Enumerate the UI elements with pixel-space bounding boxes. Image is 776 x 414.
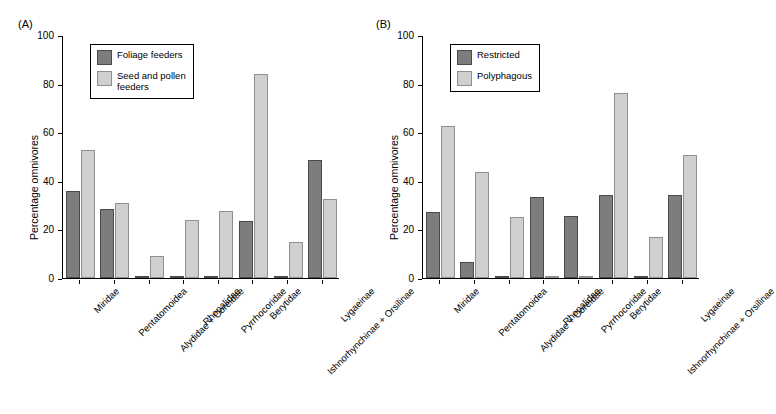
x-tick-mark [322,280,323,284]
x-tick-mark [682,280,683,284]
legend-label: Seed and pollen feeders [117,71,186,93]
panel-b: (B) Percentage omnivores 020406080100 Mi… [368,0,736,414]
x-tick-label: Miridae [92,286,121,315]
x-tick-mark [183,280,184,284]
bar [441,126,455,278]
bar [81,150,95,278]
bar [530,197,544,278]
x-tick-mark [474,280,475,284]
legend-swatch-icon [457,50,472,65]
panel-b-legend: Restricted Polyphagous [450,44,540,92]
bar [649,237,663,278]
y-tick-label: 20 [390,225,414,235]
y-tick-mark [58,279,62,280]
panel-b-label: (B) [376,18,391,30]
y-tick-label: 0 [30,274,54,284]
panel-a-y-axis-title: Percentage omnivores [28,135,40,240]
legend-entry: Seed and pollen feeders [97,71,186,93]
x-tick-mark [114,280,115,284]
legend-swatch-icon [457,71,472,86]
panel-a-label: (A) [18,18,33,30]
bar [564,216,578,278]
y-tick-label: 100 [390,31,414,41]
bar [579,276,593,278]
bar [668,195,682,278]
bar [510,217,524,278]
x-tick-label: Rhopalidae [201,286,242,327]
x-tick-mark [612,280,613,284]
x-tick-mark [218,280,219,284]
bar [150,256,164,278]
y-tick-mark [418,133,422,134]
x-tick-mark [439,280,440,284]
y-tick-mark [58,36,62,37]
x-tick-mark [79,280,80,284]
x-tick-label: Pentatomoidea [137,286,189,338]
bar [66,191,80,278]
x-tick-label: Ishnorhynchinae + Orsilinae [686,286,776,376]
y-tick-label: 60 [30,128,54,138]
x-tick-mark [543,280,544,284]
bar [170,276,184,278]
legend-swatch-icon [97,71,112,86]
bar [204,276,218,278]
legend-label: Polyphagous [477,71,532,82]
bar [323,199,337,278]
legend-entry: Foliage feeders [97,50,186,65]
bar [219,211,233,278]
panel-a: (A) Percentage omnivores 020406080100 Mi… [0,0,368,414]
bar [475,172,489,278]
x-tick-mark [252,280,253,284]
y-tick-mark [58,133,62,134]
y-tick-mark [418,85,422,86]
bar [100,209,114,278]
bar [185,220,199,278]
bar [289,242,303,278]
bar [614,93,628,278]
bar [254,74,268,278]
y-tick-mark [418,279,422,280]
y-tick-label: 60 [390,128,414,138]
bar [308,160,322,278]
x-tick-label: Lygaeinae [698,286,735,323]
x-tick-label: Miridae [452,286,481,315]
legend-entry: Restricted [457,50,532,65]
bar [599,195,613,278]
y-tick-label: 80 [390,80,414,90]
panel-b-y-axis-title: Percentage omnivores [388,135,400,240]
y-tick-mark [58,85,62,86]
bar [460,262,474,278]
y-tick-mark [58,230,62,231]
x-tick-mark [149,280,150,284]
y-tick-label: 20 [30,225,54,235]
y-tick-mark [58,182,62,183]
bar [634,276,648,278]
x-tick-mark [578,280,579,284]
bar [426,212,440,278]
bar [115,203,129,278]
panel-a-legend: Foliage feeders Seed and pollen feeders [90,44,194,99]
y-tick-mark [418,230,422,231]
y-tick-label: 40 [390,177,414,187]
legend-label: Restricted [477,50,520,61]
y-tick-mark [418,182,422,183]
x-tick-label: Rhopalidae [561,286,602,327]
x-tick-mark [647,280,648,284]
bar [239,221,253,278]
bar [545,276,559,278]
bar [135,276,149,278]
legend-entry: Polyphagous [457,71,532,86]
legend-label: Foliage feeders [117,50,182,61]
y-tick-label: 0 [390,274,414,284]
y-tick-label: 80 [30,80,54,90]
bar [274,276,288,278]
x-tick-mark [509,280,510,284]
bar [683,155,697,278]
y-tick-mark [418,36,422,37]
y-tick-label: 40 [30,177,54,187]
x-tick-label: Pentatomoidea [497,286,549,338]
y-tick-label: 100 [30,31,54,41]
bar [495,276,509,278]
legend-swatch-icon [97,50,112,65]
